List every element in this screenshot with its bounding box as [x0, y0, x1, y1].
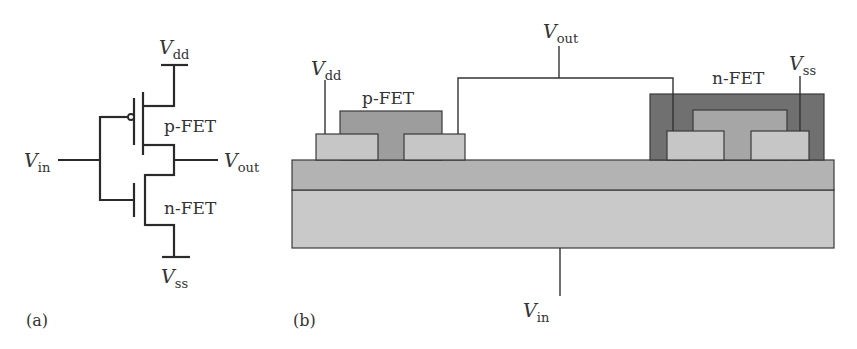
pfet-source [316, 134, 378, 160]
panel-a-tag: (a) [26, 311, 48, 330]
section-nfet-label: n-FET [712, 68, 765, 88]
schematic-nfet-label: n-FET [164, 198, 217, 218]
section-vin-label: Vin [523, 299, 550, 325]
substrate-layer [292, 190, 834, 248]
section-pfet-label: p-FET [362, 88, 415, 108]
nfet-source [751, 131, 809, 160]
panel-b-cross-section: Vdd p-FET Vout n-FET Vss Vin (b) [292, 20, 834, 330]
schematic-pfet-label: p-FET [164, 116, 217, 136]
panel-b-tag: (b) [293, 311, 316, 330]
nfet-drain [667, 131, 724, 160]
section-vss-label: Vss [789, 52, 816, 78]
schematic-vss-label: Vss [161, 265, 188, 291]
panel-a-schematic: Vdd p-FET Vin Vout n-FET Vss (a) [24, 36, 260, 330]
oxide-layer [292, 160, 834, 190]
vout-connection-wire [458, 78, 673, 134]
pfet-drain [404, 134, 465, 160]
schematic-vout-label: Vout [224, 149, 260, 175]
pfet-inversion-bubble-icon [128, 114, 134, 120]
schematic-vdd-label: Vdd [159, 36, 189, 62]
section-vout-label: Vout [543, 20, 579, 46]
section-vdd-label: Vdd [311, 57, 341, 83]
schematic-vin-label: Vin [24, 149, 51, 175]
